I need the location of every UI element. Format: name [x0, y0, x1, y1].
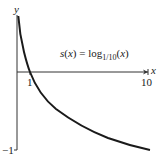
x-tick-label-1: 1	[27, 76, 33, 88]
chart: y x 1 10 −1 s(x) = log1/10(x)	[0, 0, 167, 164]
y-axis-label: y	[13, 3, 19, 15]
x-axis-label: x	[150, 64, 156, 76]
y-tick-label-neg1: −1	[2, 144, 14, 156]
x-tick-label-10: 10	[141, 76, 153, 88]
function-label: s(x) = log1/10(x)	[60, 47, 129, 62]
function-curve	[18, 16, 150, 150]
